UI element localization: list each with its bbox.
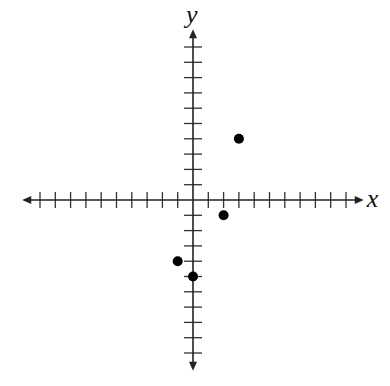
- x-axis-arrow-left-icon: [22, 196, 31, 204]
- y-axis-arrow-up-icon: [189, 29, 197, 38]
- data-point: [173, 256, 183, 266]
- coordinate-plane: x y: [0, 0, 390, 386]
- data-point: [188, 272, 198, 282]
- y-axis-arrow-down-icon: [189, 362, 197, 371]
- x-axis-arrow-right-icon: [355, 196, 364, 204]
- x-axis-label: x: [366, 184, 379, 213]
- data-point: [219, 210, 229, 220]
- y-axis-label: y: [183, 0, 198, 29]
- data-point: [234, 134, 244, 144]
